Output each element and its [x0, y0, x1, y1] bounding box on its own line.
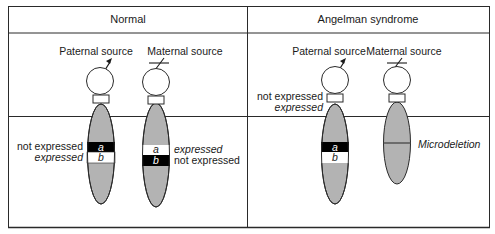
svg-text:b: b	[153, 154, 159, 166]
centromere	[93, 95, 109, 103]
normal-paternal-chromosome: Paternal source a b not expressed expres…	[17, 45, 133, 204]
source-label: Paternal source	[59, 45, 133, 57]
centromere	[327, 94, 343, 102]
centromere	[148, 96, 164, 104]
svg-text:b: b	[332, 151, 338, 163]
satellite	[87, 68, 114, 95]
source-label: Paternal source	[292, 45, 366, 57]
centromere	[389, 94, 405, 102]
source-label: Maternal source	[366, 45, 441, 57]
satellite	[322, 67, 349, 94]
satellite	[384, 67, 411, 94]
angelman-paternal-chromosome: Paternal source a b not expressed expres…	[257, 45, 366, 204]
normal-maternal-chromosome: Maternal source a b expressed not expres…	[142, 45, 240, 207]
satellite	[143, 69, 170, 96]
svg-text:b: b	[98, 151, 104, 163]
source-label: Maternal source	[147, 45, 222, 57]
status-label-b: expressed	[35, 151, 85, 163]
microdeletion-label: Microdeletion	[418, 138, 481, 150]
angelman-diagram: Normal Angelman syndrome Paternal source…	[0, 0, 495, 234]
male-arrow-icon	[105, 58, 112, 70]
status-label-2: expressed	[275, 101, 325, 113]
status-label-b: not expressed	[174, 154, 240, 166]
panel-title-normal: Normal	[110, 13, 145, 25]
slash-icon	[149, 58, 169, 70]
panel-title-angelman: Angelman syndrome	[318, 13, 419, 25]
angelman-maternal-chromosome: Maternal source Microdeletion	[366, 45, 480, 184]
